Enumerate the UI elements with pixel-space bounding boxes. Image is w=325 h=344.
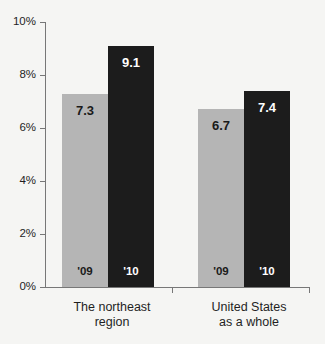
bar-us-2010[interactable]: 7.4 '10 bbox=[244, 91, 290, 287]
y-tick-label: 2% bbox=[2, 228, 36, 240]
category-label-line1: United States bbox=[185, 300, 313, 315]
category-label-line2: as a whole bbox=[185, 315, 313, 330]
bar-year-label: '09 bbox=[62, 266, 108, 278]
chart-title-cropped bbox=[0, 0, 325, 2]
y-tick-label: 6% bbox=[2, 122, 36, 134]
y-tick-label: 4% bbox=[2, 175, 36, 187]
bar-us-2009[interactable]: 6.7 '09 bbox=[198, 109, 244, 287]
bar-year-label: '10 bbox=[244, 266, 290, 278]
bar-value-label: 7.3 bbox=[62, 104, 108, 117]
bar-chart: 10% 8% 6% 4% 2% 0% 7.3 '09 9.1 '10 6. bbox=[0, 0, 325, 344]
bar-northeast-2009[interactable]: 7.3 '09 bbox=[62, 94, 108, 287]
x-tick-end bbox=[309, 288, 310, 293]
bar-value-label: 7.4 bbox=[244, 101, 290, 114]
bar-year-label: '09 bbox=[198, 266, 244, 278]
x-tick-separator bbox=[172, 288, 173, 293]
plot-area: 7.3 '09 9.1 '10 6.7 '09 7.4 '10 bbox=[45, 22, 310, 287]
y-tick-label: 10% bbox=[2, 16, 36, 28]
y-tick-label: 8% bbox=[2, 69, 36, 81]
y-tick-label: 0% bbox=[2, 281, 36, 293]
category-label-northeast: The northeast region bbox=[48, 300, 176, 330]
category-label-us: United States as a whole bbox=[185, 300, 313, 330]
y-tick-0: 0% bbox=[0, 287, 325, 288]
bar-value-label: 6.7 bbox=[198, 119, 244, 132]
category-label-line2: region bbox=[48, 315, 176, 330]
bar-northeast-2010[interactable]: 9.1 '10 bbox=[108, 46, 154, 287]
bar-year-label: '10 bbox=[108, 266, 154, 278]
bar-value-label: 9.1 bbox=[108, 56, 154, 69]
y-tick-mark bbox=[40, 287, 45, 288]
category-label-line1: The northeast bbox=[48, 300, 176, 315]
